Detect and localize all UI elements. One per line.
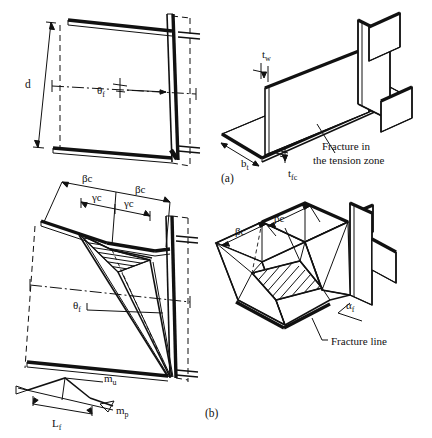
fracture-line-leader (312, 318, 328, 340)
label-theta-f-b: θf (73, 299, 81, 314)
moment-mechanism-diagram: mu mp Lf (16, 372, 129, 432)
engineering-figure: d θf (0, 0, 432, 438)
column-flange-plate-b (350, 203, 372, 305)
label-t-fc: tfc (288, 167, 298, 182)
label-m-p: mp (116, 404, 129, 419)
column-member-b (166, 216, 198, 378)
caption-a: (a) (221, 172, 234, 185)
beam-web-plate (265, 47, 369, 155)
deformed-reference-outline (25, 216, 188, 382)
beam-top-flange (68, 20, 172, 36)
label-theta-f: θf (97, 84, 105, 99)
label-beta-c-right: βc (135, 183, 146, 195)
beta-c-dimension (44, 182, 170, 247)
label-beta-c-far: βc (235, 225, 246, 237)
column-web-stub-near (372, 239, 396, 283)
label-alpha-f: αf (346, 299, 355, 314)
label-m-u: mu (104, 372, 117, 387)
caption-b: (b) (205, 407, 219, 420)
panel-b-isometric: βc βc αf Fracture line (b) (205, 203, 396, 420)
panel-a-elevation: d θf (25, 14, 200, 168)
beam-bottom-flange (53, 148, 172, 163)
panel-b-elevation: βc βc γc γc θf (25, 172, 198, 382)
label-L-f: Lf (52, 417, 62, 432)
label-beta-c-near: βc (274, 212, 285, 224)
beam-bottom-flange-b (27, 362, 168, 381)
label-gamma-c-right: γc (123, 197, 134, 209)
web-thickness-dimension (253, 63, 268, 82)
note-fracture-tension-zone-line1: Fracture in (322, 140, 370, 152)
note-fracture-tension-zone-line2: the tension zone (313, 154, 385, 166)
label-depth-d: d (25, 78, 31, 90)
label-gamma-c-left: γc (91, 191, 102, 203)
label-t-w: tw (262, 48, 271, 63)
panel-a-isometric: tw bt tfc Fracture in the tension zone (… (221, 13, 412, 185)
note-fracture-line: Fracture line (331, 335, 387, 347)
label-beta-c-left: βc (82, 172, 93, 184)
depth-dimension (33, 22, 56, 148)
